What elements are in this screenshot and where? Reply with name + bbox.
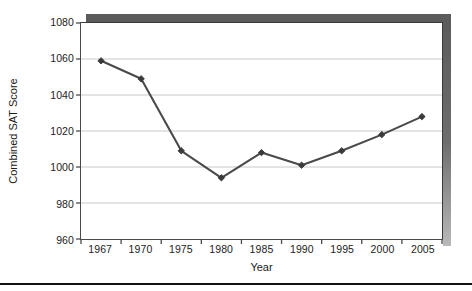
sat-score-line-chart: 96098010001020104010601080 1967197019751… (0, 0, 472, 291)
x-axis-tick-label: 2005 (411, 243, 435, 255)
x-axis-tick-label: 1970 (129, 243, 153, 255)
y-axis-tick-label: 960 (56, 234, 74, 246)
data-point-marker (419, 113, 425, 119)
data-point-marker (339, 148, 345, 154)
x-axis-tick-labels: 196719701975198019851990199520002005 (80, 243, 443, 261)
x-axis-tick-label: 1995 (330, 243, 354, 255)
y-axis-tick-label: 1040 (50, 89, 74, 101)
x-axis-tick-label: 1975 (169, 243, 193, 255)
data-point-marker (379, 131, 385, 137)
y-axis-tick-label: 1020 (50, 125, 74, 137)
plot-area (80, 22, 443, 240)
x-axis-tick-label: 1985 (250, 243, 274, 255)
data-point-marker (298, 162, 304, 168)
x-axis-tick-label: 2000 (371, 243, 395, 255)
data-series-line (81, 23, 442, 239)
chart-frame-shadow-top (86, 14, 450, 22)
footer-divider (0, 283, 472, 285)
y-axis-tick-label: 1000 (50, 161, 74, 173)
x-axis-tick-label: 1967 (88, 243, 112, 255)
x-axis-title: Year (80, 261, 443, 273)
y-axis-tick-labels: 96098010001020104010601080 (36, 22, 74, 240)
x-axis-tick-label: 1990 (290, 243, 314, 255)
x-axis-tick-label: 1980 (209, 243, 233, 255)
y-axis-title: Combined SAT Score (7, 78, 19, 183)
series-line (101, 61, 422, 178)
y-axis-tick-label: 980 (56, 198, 74, 210)
data-point-marker (98, 58, 104, 64)
y-axis-tick-label: 1080 (50, 16, 74, 28)
y-axis-tick-label: 1060 (50, 52, 74, 64)
chart-frame-shadow-right (443, 14, 451, 246)
